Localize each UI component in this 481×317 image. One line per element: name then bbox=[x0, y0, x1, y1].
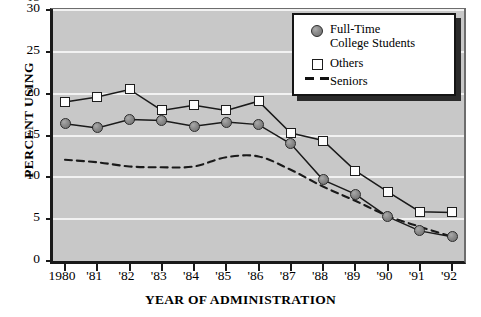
x-tick-label: '92 bbox=[423, 268, 475, 284]
y-tick-mark bbox=[46, 135, 53, 137]
data-point-marker bbox=[189, 121, 200, 132]
legend-label-line1: Full-Time bbox=[330, 23, 415, 37]
y-tick-label: 10 bbox=[6, 168, 40, 181]
data-point-marker bbox=[350, 166, 360, 176]
open-square-marker bbox=[304, 57, 330, 70]
legend-label: Full-TimeCollege Students bbox=[330, 23, 415, 50]
legend-label: Others bbox=[330, 57, 363, 71]
data-point-marker bbox=[125, 84, 135, 94]
y-tick-mark bbox=[46, 260, 53, 262]
data-point-marker bbox=[383, 187, 393, 197]
data-point-marker bbox=[221, 105, 231, 115]
y-tick-mark bbox=[46, 176, 53, 178]
legend-label: Seniors bbox=[330, 75, 368, 89]
dashed-line-icon bbox=[305, 77, 329, 80]
legend-entry: Others bbox=[304, 57, 363, 71]
series-line bbox=[65, 120, 452, 237]
y-tick-label-clipped: 35 bbox=[6, 0, 40, 1]
data-point-marker bbox=[318, 136, 328, 146]
data-point-marker bbox=[60, 97, 70, 107]
y-tick-label: 0 bbox=[6, 252, 40, 265]
x-axis-title: YEAR OF ADMINISTRATION bbox=[0, 292, 481, 308]
data-point-marker bbox=[60, 118, 71, 129]
square-icon bbox=[312, 59, 323, 70]
y-tick-label: 20 bbox=[6, 85, 40, 98]
y-tick-mark bbox=[46, 218, 53, 220]
data-point-marker bbox=[286, 128, 296, 138]
legend-entry: Full-TimeCollege Students bbox=[304, 23, 415, 50]
data-point-marker bbox=[415, 207, 425, 217]
data-point-marker bbox=[92, 92, 102, 102]
data-point-marker bbox=[189, 100, 199, 110]
y-tick-mark bbox=[46, 51, 53, 53]
legend-entry: Seniors bbox=[304, 75, 368, 89]
legend-label-line1: Others bbox=[330, 57, 363, 71]
legend-label-line2: College Students bbox=[330, 37, 415, 51]
y-tick-mark bbox=[46, 9, 53, 11]
circle-icon bbox=[311, 25, 323, 37]
chart-figure: PERCENT USING 05101520253035 1980'81'82'… bbox=[0, 0, 481, 317]
data-point-marker bbox=[447, 207, 457, 217]
dashed-line-marker bbox=[304, 75, 330, 80]
data-point-marker bbox=[318, 174, 329, 185]
y-tick-label: 30 bbox=[6, 1, 40, 14]
series-line bbox=[65, 89, 452, 212]
y-tick-label: 5 bbox=[6, 210, 40, 223]
y-tick-label: 25 bbox=[6, 43, 40, 56]
chart-legend: Full-TimeCollege StudentsOthersSeniors bbox=[292, 13, 456, 96]
data-point-marker bbox=[254, 96, 264, 106]
data-point-marker bbox=[350, 189, 361, 200]
data-point-marker bbox=[157, 105, 167, 115]
legend-label-line1: Seniors bbox=[330, 75, 368, 89]
y-tick-label: 15 bbox=[6, 127, 40, 140]
data-point-marker bbox=[221, 117, 232, 128]
y-tick-mark bbox=[46, 93, 53, 95]
data-point-marker bbox=[447, 231, 458, 242]
filled-circle-marker bbox=[304, 23, 330, 37]
